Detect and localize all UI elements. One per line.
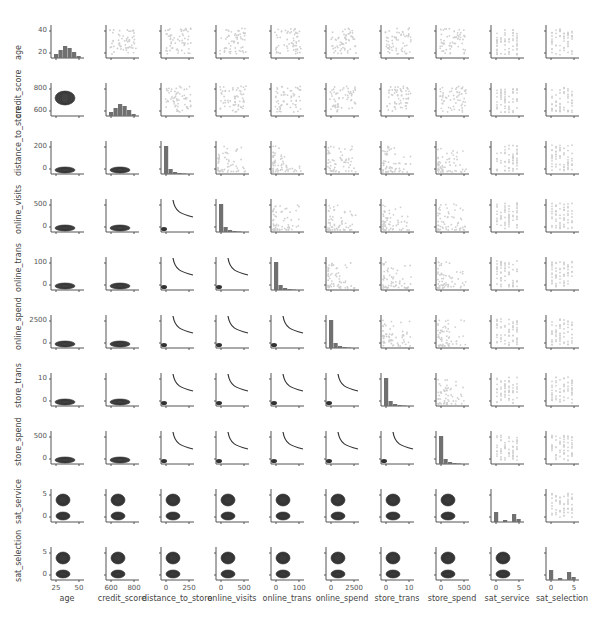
subplot-store_trans-vs-store_trans xyxy=(379,373,414,408)
subplot-store_spend-vs-online_spend xyxy=(324,431,359,466)
subplot-online_spend-vs-online_visits xyxy=(214,315,249,350)
subplot-store_trans-vs-distance_to_store xyxy=(159,373,194,408)
x-axis-label-sat_selection: sat_selection xyxy=(527,594,597,603)
subplot-age-vs-online_trans xyxy=(269,25,304,60)
x-tick-label: 0 xyxy=(439,584,443,592)
subplot-online_spend-vs-sat_selection xyxy=(544,315,579,350)
x-tick-label: 250 xyxy=(182,584,195,592)
subplot-store_spend-vs-distance_to_store xyxy=(159,431,194,466)
x-tick-label: 0 xyxy=(329,584,333,592)
y-axis-label-store_trans: store_trans xyxy=(14,363,23,408)
x-tick-label: 500 xyxy=(457,584,470,592)
subplot-sat_selection-vs-online_spend xyxy=(324,547,359,582)
subplot-online_visits-vs-distance_to_store xyxy=(159,199,194,234)
subplot-credit_score-vs-online_spend xyxy=(324,83,359,118)
subplot-sat_service-vs-sat_selection xyxy=(544,489,579,524)
y-tick-label: 100 xyxy=(34,258,47,266)
subplot-store_trans-vs-online_visits xyxy=(214,373,249,408)
x-tick-label: 0 xyxy=(549,584,553,592)
subplot-sat_selection-vs-online_trans xyxy=(269,547,304,582)
y-tick-label: 500 xyxy=(34,200,47,208)
y-axis-label-age: age xyxy=(14,45,23,60)
subplot-sat_service-vs-age xyxy=(49,489,84,524)
subplot-online_trans-vs-sat_selection xyxy=(544,257,579,292)
y-tick-label: 5 xyxy=(43,548,47,556)
subplot-online_spend-vs-online_trans xyxy=(269,315,304,350)
subplot-distance_to_store-vs-distance_to_store xyxy=(159,141,194,176)
y-axis-label-distance_to_store: distance_to_store xyxy=(14,106,23,176)
y-tick-label: 0 xyxy=(43,280,47,288)
subplot-store_spend-vs-sat_service xyxy=(489,431,524,466)
subplot-online_visits-vs-sat_service xyxy=(489,199,524,234)
subplot-age-vs-online_visits xyxy=(214,25,249,60)
y-tick-label: 600 xyxy=(34,106,47,114)
y-tick-label: 800 xyxy=(34,84,47,92)
subplot-age-vs-age xyxy=(49,25,84,60)
subplot-age-vs-credit_score xyxy=(104,25,139,60)
y-tick-label: 500 xyxy=(34,432,47,440)
subplot-online_trans-vs-age xyxy=(49,257,84,292)
subplot-online_spend-vs-distance_to_store xyxy=(159,315,194,350)
x-tick-label: 5 xyxy=(517,584,521,592)
subplot-online_trans-vs-store_spend xyxy=(434,257,469,292)
subplot-sat_service-vs-distance_to_store xyxy=(159,489,194,524)
subplot-store_trans-vs-sat_service xyxy=(489,373,524,408)
subplot-online_visits-vs-sat_selection xyxy=(544,199,579,234)
subplot-online_trans-vs-online_trans xyxy=(269,257,304,292)
subplot-credit_score-vs-sat_service xyxy=(489,83,524,118)
y-axis-label-online_visits: online_visits xyxy=(14,185,23,234)
subplot-sat_service-vs-store_spend xyxy=(434,489,469,524)
x-tick-label: 0 xyxy=(219,584,223,592)
y-tick-label: 10 xyxy=(38,374,47,382)
subplot-online_visits-vs-store_trans xyxy=(379,199,414,234)
x-tick-label: 2500 xyxy=(345,584,363,592)
subplot-age-vs-sat_selection xyxy=(544,25,579,60)
x-tick-label: 100 xyxy=(292,584,305,592)
subplot-sat_service-vs-online_trans xyxy=(269,489,304,524)
subplot-credit_score-vs-store_spend xyxy=(434,83,469,118)
x-tick-label: 10 xyxy=(405,584,414,592)
y-tick-label: 20 xyxy=(38,48,47,56)
subplot-sat_selection-vs-age xyxy=(49,547,84,582)
subplot-age-vs-store_spend xyxy=(434,25,469,60)
subplot-store_spend-vs-store_spend xyxy=(434,431,469,466)
subplot-distance_to_store-vs-online_spend xyxy=(324,141,359,176)
subplot-online_visits-vs-age xyxy=(49,199,84,234)
subplot-sat_selection-vs-sat_selection xyxy=(544,547,579,582)
y-tick-label: 200 xyxy=(34,142,47,150)
subplot-credit_score-vs-age xyxy=(49,83,84,118)
subplot-sat_selection-vs-online_visits xyxy=(214,547,249,582)
x-tick-label: 0 xyxy=(274,584,278,592)
y-tick-label: 40 xyxy=(38,26,47,34)
subplot-store_trans-vs-age xyxy=(49,373,84,408)
subplot-distance_to_store-vs-online_visits xyxy=(214,141,249,176)
subplot-store_trans-vs-online_trans xyxy=(269,373,304,408)
y-tick-label: 0 xyxy=(43,338,47,346)
subplot-sat_service-vs-credit_score xyxy=(104,489,139,524)
x-tick-label: 0 xyxy=(384,584,388,592)
y-axis-label-sat_service: sat_service xyxy=(14,479,23,524)
subplot-store_trans-vs-store_spend xyxy=(434,373,469,408)
subplot-age-vs-distance_to_store xyxy=(159,25,194,60)
pairplot-grid xyxy=(0,0,609,600)
x-tick-label: 500 xyxy=(237,584,250,592)
y-tick-label: 0 xyxy=(43,570,47,578)
y-tick-label: 0 xyxy=(43,222,47,230)
subplot-distance_to_store-vs-store_spend xyxy=(434,141,469,176)
y-tick-label: 0 xyxy=(43,164,47,172)
subplot-sat_service-vs-store_trans xyxy=(379,489,414,524)
subplot-store_trans-vs-credit_score xyxy=(104,373,139,408)
subplot-store_spend-vs-credit_score xyxy=(104,431,139,466)
subplot-online_trans-vs-online_visits xyxy=(214,257,249,292)
subplot-online_spend-vs-store_spend xyxy=(434,315,469,350)
subplot-store_trans-vs-sat_selection xyxy=(544,373,579,408)
footer-caption xyxy=(258,612,558,617)
x-tick-label: 50 xyxy=(75,584,84,592)
subplot-online_visits-vs-store_spend xyxy=(434,199,469,234)
y-axis-label-store_spend: store_spend xyxy=(14,417,23,466)
subplot-store_spend-vs-sat_selection xyxy=(544,431,579,466)
x-tick-label: 0 xyxy=(164,584,168,592)
subplot-sat_selection-vs-credit_score xyxy=(104,547,139,582)
subplot-store_trans-vs-online_spend xyxy=(324,373,359,408)
subplot-online_visits-vs-online_spend xyxy=(324,199,359,234)
